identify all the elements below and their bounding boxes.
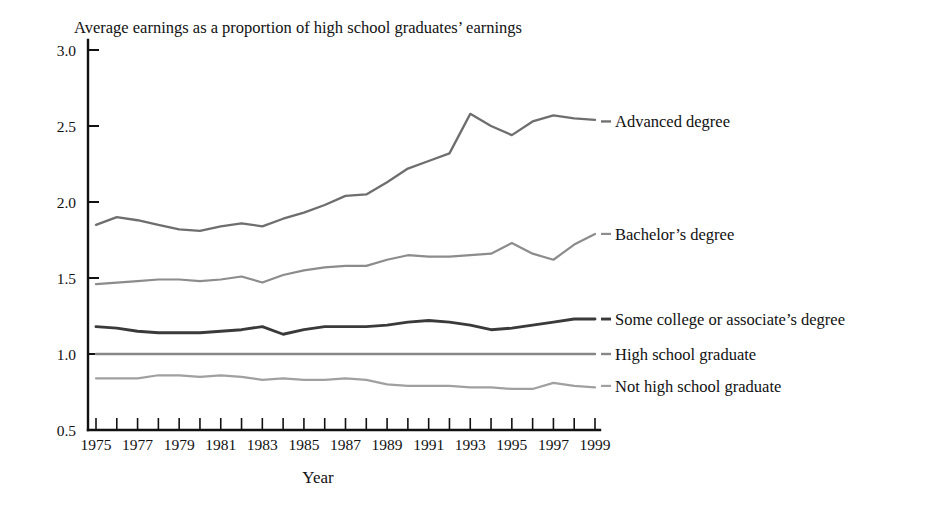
series-label: Not high school graduate: [615, 377, 781, 396]
series-label: Some college or associate’s degree: [615, 310, 845, 329]
line-chart: Average earnings as a proportion of high…: [0, 0, 937, 509]
y-tick-label: 1.5: [57, 270, 77, 287]
y-tick-label: 3.0: [57, 42, 77, 59]
x-tick-label: 1975: [81, 436, 112, 453]
x-tick-label: 1981: [205, 436, 236, 453]
x-tick-label: 1989: [372, 436, 403, 453]
x-tick-label: 1983: [247, 436, 278, 453]
y-tick-label: 0.5: [57, 422, 77, 439]
series-label: Bachelor’s degree: [615, 225, 734, 244]
x-tick-label: 1993: [455, 436, 486, 453]
chart-container: Average earnings as a proportion of high…: [0, 0, 937, 509]
x-tick-label: 1991: [413, 436, 444, 453]
x-tick-label: 1999: [580, 436, 611, 453]
x-tick-label: 1997: [538, 436, 569, 453]
x-tick-label: 1987: [330, 436, 361, 453]
chart-title: Average earnings as a proportion of high…: [74, 18, 522, 37]
x-axis-title: Year: [302, 468, 334, 487]
series-label: Advanced degree: [615, 112, 730, 131]
series-label: High school graduate: [615, 345, 756, 364]
x-tick-label: 1979: [164, 436, 195, 453]
x-tick-label: 1977: [122, 436, 153, 453]
y-tick-label: 1.0: [57, 346, 77, 363]
x-tick-label: 1985: [288, 436, 319, 453]
x-tick-label: 1995: [496, 436, 527, 453]
y-tick-label: 2.5: [57, 118, 77, 135]
y-tick-label: 2.0: [57, 194, 77, 211]
